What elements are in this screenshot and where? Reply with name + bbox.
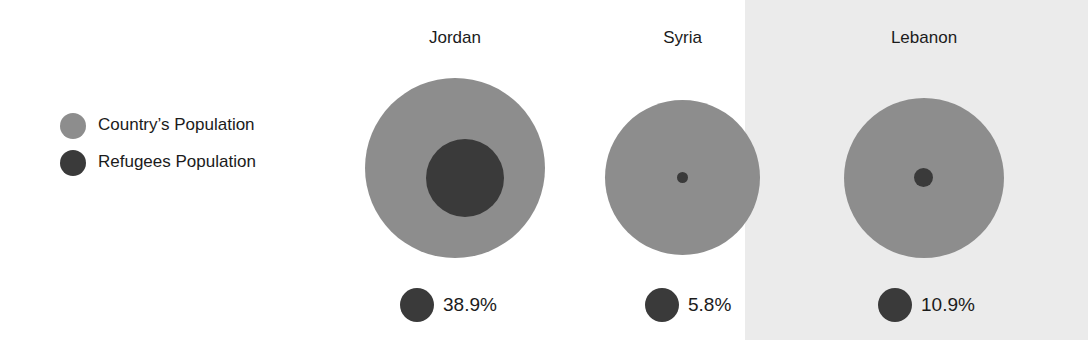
percent-marker-dot-syria xyxy=(645,288,679,322)
legend-item-country-population: Country’s Population xyxy=(58,110,318,147)
country-title-lebanon: Lebanon xyxy=(843,28,1005,48)
refugees-bubble-lebanon xyxy=(914,168,933,187)
country-title-syria: Syria xyxy=(604,28,761,48)
legend-swatch-circle-population xyxy=(60,113,86,139)
legend-label-country-population: Country’s Population xyxy=(98,112,255,138)
percent-value-syria: 5.8% xyxy=(688,294,731,316)
percent-row-lebanon: 10.9% xyxy=(878,288,975,322)
country-title-jordan: Jordan xyxy=(355,28,555,48)
chart-legend: Country’s Population Refugees Population xyxy=(58,110,318,184)
bubble-chart-figure: Country’s Population Refugees Population… xyxy=(0,0,1088,340)
percent-value-lebanon: 10.9% xyxy=(921,294,975,316)
legend-swatch-circle-refugees xyxy=(60,150,86,176)
percent-row-jordan: 38.9% xyxy=(400,288,497,322)
refugees-bubble-jordan xyxy=(426,139,504,217)
legend-item-refugees-population: Refugees Population xyxy=(58,147,318,184)
percent-marker-dot-lebanon xyxy=(878,288,912,322)
percent-value-jordan: 38.9% xyxy=(443,294,497,316)
refugees-bubble-syria xyxy=(677,172,688,183)
percent-row-syria: 5.8% xyxy=(645,288,731,322)
legend-label-refugees-population: Refugees Population xyxy=(98,149,256,175)
percent-marker-dot-jordan xyxy=(400,288,434,322)
